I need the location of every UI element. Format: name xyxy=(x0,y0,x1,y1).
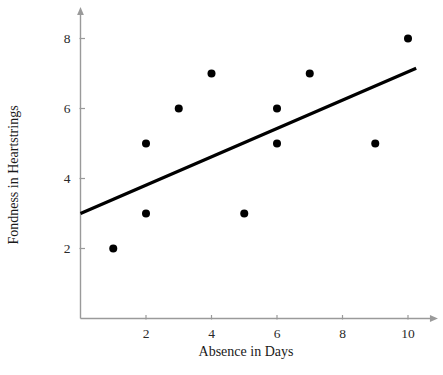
data-point xyxy=(142,210,150,218)
data-point xyxy=(142,140,150,148)
x-tick-label: 6 xyxy=(274,326,281,342)
data-point xyxy=(208,70,216,78)
scatter-plot-figure: 246810 2468 Absence in Days Fondness in … xyxy=(0,0,443,375)
plot-canvas xyxy=(0,0,443,375)
trend-line xyxy=(81,68,417,213)
axes-group xyxy=(77,7,438,322)
y-tick-label: 2 xyxy=(64,241,71,257)
data-point xyxy=(404,35,412,43)
y-tick-label: 6 xyxy=(64,101,71,117)
data-point xyxy=(273,140,281,148)
y-axis-title: Fondness in Heartstrings xyxy=(6,105,22,244)
x-tick-label: 10 xyxy=(401,326,415,342)
x-tick-label: 8 xyxy=(339,326,346,342)
tick-marks-group xyxy=(80,39,409,320)
x-tick-label: 2 xyxy=(143,326,150,342)
x-axis-title: Absence in Days xyxy=(199,344,294,360)
data-point xyxy=(273,105,281,113)
data-points-group xyxy=(109,35,412,253)
y-tick-label: 8 xyxy=(64,31,71,47)
x-tick-label: 4 xyxy=(208,326,215,342)
data-point xyxy=(306,70,314,78)
data-point xyxy=(109,245,117,253)
data-point xyxy=(371,140,379,148)
data-point xyxy=(240,210,248,218)
y-tick-label: 4 xyxy=(64,171,71,187)
data-point xyxy=(175,105,183,113)
